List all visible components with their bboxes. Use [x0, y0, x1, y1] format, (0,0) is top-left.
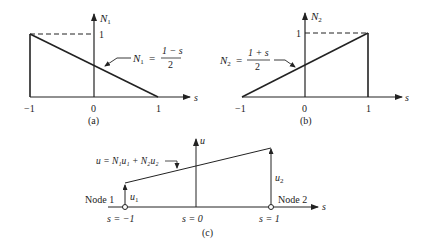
panel-b: N2 1 s −1 0 1 (b) N2 = 1 + s 2	[219, 10, 409, 127]
s-label-1: s = 1	[259, 213, 280, 224]
n1-axis-label: N1	[99, 12, 111, 26]
s-axis-label-b: s	[405, 92, 409, 103]
u-axis-label: u	[200, 135, 205, 146]
tick-neg1-b: −1	[235, 103, 246, 114]
svg-text:=: =	[149, 52, 155, 64]
tick-neg1-a: −1	[24, 103, 35, 114]
s-axis-label-c: s	[322, 201, 326, 212]
svg-text:N1: N1	[132, 52, 144, 66]
n2-formula: N2 = 1 + s 2	[219, 47, 270, 72]
caption-a: (a)	[88, 115, 99, 127]
node-2-label: Node 2	[278, 194, 307, 205]
u-equation: u = N₁u₁ + N₂u₂	[96, 156, 159, 166]
s-axis-label-a: s	[194, 92, 198, 103]
u2-label: u2	[275, 172, 284, 185]
y-tick-1-b: 1	[296, 28, 301, 39]
node-1-marker	[123, 205, 128, 210]
y-tick-1-a: 1	[99, 29, 104, 40]
shape-functions-diagram: N1 1 s −1 0 1 (a) N1 = 1 − s 2 N2 1 s −1…	[0, 0, 426, 252]
caption-b: (b)	[300, 115, 312, 127]
svg-text:N2: N2	[219, 54, 231, 68]
tick-0-a: 0	[91, 103, 96, 114]
svg-text:1 + s: 1 + s	[248, 47, 269, 58]
n2-leader	[274, 60, 295, 67]
s-label-neg1: s = −1	[107, 213, 134, 224]
panel-a: N1 1 s −1 0 1 (a) N1 = 1 − s 2	[24, 12, 198, 127]
caption-c: (c)	[202, 227, 213, 239]
u1-label: u1	[130, 191, 139, 204]
panel-c: u s u = N₁u₁ + N₂u₂ u1 u2 Node 1 Node 2 …	[85, 135, 326, 239]
tick-1-b: 1	[366, 103, 371, 114]
svg-text:1 − s: 1 − s	[162, 45, 183, 56]
svg-text:2: 2	[255, 61, 260, 72]
tick-0-b: 0	[302, 103, 307, 114]
n1-formula: N1 = 1 − s 2	[132, 45, 183, 70]
tick-1-a: 1	[156, 103, 161, 114]
n2-axis-label: N2	[310, 10, 322, 24]
node-1-label: Node 1	[85, 194, 114, 205]
u-leader	[165, 161, 177, 168]
node-2-marker	[269, 205, 274, 210]
svg-text:=: =	[236, 54, 242, 66]
n1-leader	[105, 58, 131, 66]
s-label-0: s = 0	[182, 213, 203, 224]
svg-text:2: 2	[168, 59, 173, 70]
